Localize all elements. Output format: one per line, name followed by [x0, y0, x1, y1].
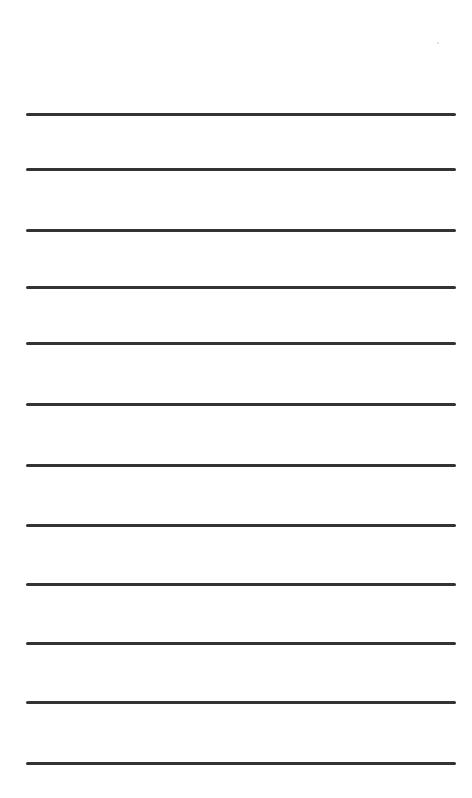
ruled-line: [26, 403, 456, 406]
ruled-line: [26, 701, 456, 704]
ruled-line: [26, 464, 456, 467]
ruled-line: [26, 762, 456, 765]
ruled-line: [26, 168, 456, 171]
ruled-line: [26, 524, 456, 527]
faint-speck: [437, 42, 439, 44]
ruled-line: [26, 229, 456, 232]
ruled-line: [26, 642, 456, 645]
ruled-line: [26, 286, 456, 289]
ruled-line: [26, 113, 456, 116]
ruled-line: [26, 342, 456, 345]
ruled-line: [26, 583, 456, 586]
